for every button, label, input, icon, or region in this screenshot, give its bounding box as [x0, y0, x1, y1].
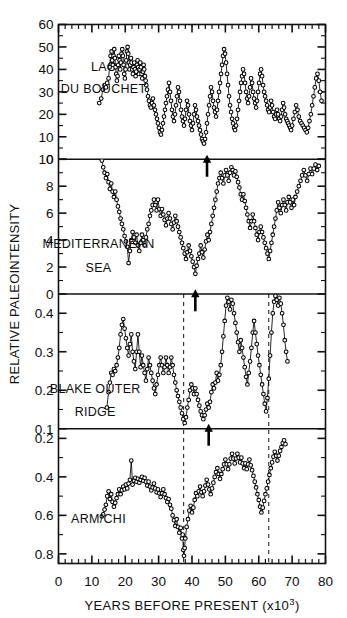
data-point: [187, 398, 191, 402]
data-point: [270, 461, 274, 465]
data-point: [248, 458, 252, 462]
data-point: [113, 190, 117, 194]
data-point: [168, 217, 172, 221]
data-point: [310, 104, 314, 108]
data-point: [202, 142, 206, 146]
data-point: [254, 331, 258, 335]
data-point: [230, 117, 234, 121]
series-label: LAC: [91, 60, 116, 74]
data-point: [248, 226, 252, 230]
data-point: [203, 137, 207, 141]
data-point: [173, 381, 177, 385]
data-point: [239, 338, 243, 342]
data-point: [143, 74, 147, 78]
data-point: [219, 171, 223, 175]
data-point: [233, 128, 237, 132]
data-point: [121, 317, 125, 321]
data-point: [309, 112, 313, 116]
data-point: [194, 108, 198, 112]
data-point: [320, 99, 324, 103]
data-point: [195, 392, 199, 396]
data-point: [243, 365, 247, 369]
data-point: [198, 485, 202, 489]
series-label: DU BOUCHET: [61, 82, 147, 96]
data-point: [247, 95, 251, 99]
data-point: [233, 462, 237, 466]
data-point: [165, 95, 169, 99]
data-point: [120, 47, 124, 51]
data-point: [167, 497, 171, 501]
data-point: [179, 526, 183, 530]
data-point: [152, 386, 156, 390]
data-point: [207, 104, 211, 108]
data-point: [186, 517, 190, 521]
data-point: [256, 354, 260, 358]
data-point: [220, 350, 224, 354]
data-point: [202, 417, 206, 421]
x-tick-label: 0: [55, 574, 63, 589]
data-point: [218, 373, 222, 377]
data-point: [235, 175, 239, 179]
data-point: [263, 95, 267, 99]
y-tick-label: 0.4: [35, 306, 54, 321]
data-point: [209, 492, 213, 496]
data-point: [271, 233, 275, 237]
data-point: [116, 205, 120, 209]
data-point: [215, 190, 219, 194]
data-point: [224, 304, 228, 308]
data-point: [224, 458, 228, 462]
series-label: BLAKE OUTER: [50, 382, 141, 396]
data-point: [161, 213, 165, 217]
data-point: [208, 230, 212, 234]
data-point: [121, 54, 125, 58]
data-point: [109, 182, 113, 186]
data-point: [316, 72, 320, 76]
data-point: [274, 294, 278, 298]
data-point: [148, 363, 152, 367]
data-point: [259, 68, 263, 72]
data-point: [122, 72, 126, 76]
data-point: [127, 261, 131, 265]
data-point: [143, 371, 147, 375]
data-point: [251, 90, 255, 94]
data-point: [179, 108, 183, 112]
data-point: [283, 338, 287, 342]
data-point: [119, 492, 123, 496]
data-point: [317, 164, 321, 168]
data-point: [222, 182, 226, 186]
data-point: [282, 106, 286, 110]
data-point: [280, 311, 284, 315]
data-point: [123, 77, 127, 81]
data-point: [305, 179, 309, 183]
data-point: [228, 308, 232, 312]
data-point: [196, 398, 200, 402]
data-point: [131, 230, 135, 234]
data-point: [242, 356, 246, 360]
data-point: [161, 121, 165, 125]
data-point: [299, 179, 303, 183]
data-point: [254, 106, 258, 110]
data-point: [282, 323, 286, 327]
data-point: [216, 466, 220, 470]
data-point: [237, 99, 241, 103]
data-point: [201, 494, 205, 498]
data-point: [119, 333, 123, 337]
data-point: [256, 492, 260, 496]
data-point: [209, 86, 213, 90]
y-tick-label: 20: [38, 107, 53, 122]
x-tick-label: 50: [218, 574, 233, 589]
data-point: [226, 83, 230, 87]
data-point: [199, 244, 203, 248]
data-point: [193, 272, 197, 276]
data-point: [97, 101, 101, 105]
data-point: [196, 257, 200, 261]
data-point: [270, 104, 274, 108]
data-point: [248, 360, 252, 364]
data-point: [273, 117, 277, 121]
data-point: [153, 203, 157, 207]
data-point: [101, 165, 105, 169]
data-point: [126, 45, 130, 49]
data-point: [210, 222, 214, 226]
data-point: [249, 463, 253, 467]
data-point: [234, 124, 238, 128]
